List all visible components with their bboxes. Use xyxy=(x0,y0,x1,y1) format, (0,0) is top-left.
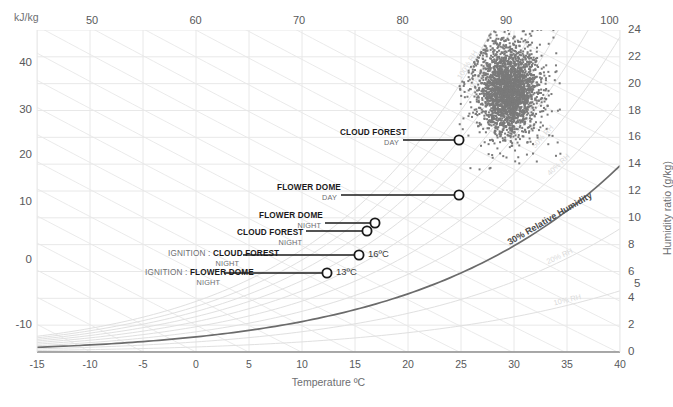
scatter-point xyxy=(525,131,527,133)
scatter-point xyxy=(533,103,535,105)
scatter-point xyxy=(528,104,530,106)
scatter-point xyxy=(502,102,504,104)
scatter-point xyxy=(504,66,506,68)
scatter-point xyxy=(537,137,539,139)
scatter-point xyxy=(527,106,529,108)
annotation-marker-cloud-forest-night[interactable] xyxy=(362,226,371,235)
scatter-point xyxy=(513,66,515,68)
annotation-marker-ignition-flower-dome-night[interactable] xyxy=(322,268,331,277)
scatter-point xyxy=(461,81,463,83)
scatter-point xyxy=(472,69,474,71)
scatter-point xyxy=(515,58,517,60)
scatter-point xyxy=(526,89,528,91)
scatter-point xyxy=(533,57,535,59)
scatter-point xyxy=(536,4,538,6)
x-tick-40: 40 xyxy=(606,358,634,370)
scatter-point xyxy=(460,103,462,105)
scatter-point xyxy=(513,36,515,38)
scatter-point xyxy=(471,116,473,118)
scatter-point xyxy=(511,131,513,133)
scatter-point xyxy=(511,103,513,105)
scatter-point xyxy=(529,105,531,107)
scatter-point xyxy=(517,128,519,130)
annotation-marker-ignition-cloud-forest-night[interactable] xyxy=(354,250,363,259)
scatter-point xyxy=(507,131,509,133)
scatter-point xyxy=(486,62,488,64)
scatter-point xyxy=(530,50,532,52)
scatter-point xyxy=(518,51,520,53)
scatter-point xyxy=(496,101,498,103)
y-axis-title: Humidity ratio (g/kg) xyxy=(661,161,673,255)
scatter-point xyxy=(515,79,517,81)
top-tick-60: 60 xyxy=(182,14,210,26)
scatter-point xyxy=(495,75,497,77)
scatter-point xyxy=(536,81,538,83)
annotation-marker-cloud-forest-day[interactable] xyxy=(454,135,463,144)
scatter-point xyxy=(479,107,481,109)
scatter-point xyxy=(463,81,465,83)
scatter-point xyxy=(516,53,518,55)
scatter-point xyxy=(496,122,498,124)
scatter-point xyxy=(511,108,513,110)
scatter-point xyxy=(502,140,504,142)
scatter-point xyxy=(492,95,494,97)
scatter-point xyxy=(514,71,516,73)
scatter-point xyxy=(493,30,495,32)
scatter-point xyxy=(509,112,511,114)
scatter-point xyxy=(495,125,497,127)
scatter-point xyxy=(517,136,519,138)
annotation-title-cloud-forest-night: CLOUD FOREST xyxy=(237,228,303,237)
scatter-point xyxy=(521,102,523,104)
scatter-point xyxy=(519,69,521,71)
top-tick-90: 90 xyxy=(492,14,520,26)
scatter-point xyxy=(529,125,531,127)
left-tick--10: -10 xyxy=(0,318,32,330)
scatter-point xyxy=(524,96,526,98)
annotation-marker-flower-dome-day[interactable] xyxy=(454,190,463,199)
scatter-point xyxy=(486,85,488,87)
annotation-sub-ignition-flower-dome-night: NIGHT xyxy=(190,278,220,287)
scatter-point xyxy=(515,114,517,116)
x-tick-25: 25 xyxy=(447,358,475,370)
scatter-point xyxy=(469,101,471,103)
scatter-point xyxy=(462,117,464,119)
scatter-point xyxy=(491,125,493,127)
scatter-point xyxy=(504,139,506,141)
scatter-point xyxy=(530,66,532,68)
scatter-point xyxy=(519,81,521,83)
scatter-point xyxy=(515,104,517,106)
scatter-point xyxy=(542,94,544,96)
scatter-point xyxy=(536,96,538,98)
scatter-point xyxy=(510,141,512,143)
scatter-point xyxy=(495,127,497,129)
scatter-point xyxy=(527,74,529,76)
scatter-point xyxy=(511,76,513,78)
scatter-point xyxy=(527,127,529,129)
scatter-point xyxy=(540,79,542,81)
scatter-point xyxy=(473,96,475,98)
scatter-point xyxy=(515,47,517,49)
scatter-point xyxy=(489,63,491,65)
scatter-point xyxy=(540,105,542,107)
scatter-point xyxy=(542,125,544,127)
annotation-title-ignition-flower-dome-night: IGNITION : FLOWER DOME xyxy=(145,268,254,277)
rh-curve-label-30: 30% Relative Humidity xyxy=(506,190,594,247)
scatter-point xyxy=(512,98,514,100)
scatter-point xyxy=(554,79,556,81)
scatter-point xyxy=(485,79,487,81)
scatter-point xyxy=(500,115,502,117)
scatter-point xyxy=(500,101,502,103)
scatter-point xyxy=(508,124,510,126)
scatter-point xyxy=(468,89,470,91)
scatter-point xyxy=(506,129,508,131)
scatter-point xyxy=(519,122,521,124)
scatter-point xyxy=(517,57,519,59)
scatter-point xyxy=(486,50,488,52)
annotation-marker-flower-dome-night[interactable] xyxy=(370,218,379,227)
scatter-point xyxy=(530,44,532,46)
scatter-point xyxy=(525,34,527,36)
scatter-point xyxy=(487,73,489,75)
scatter-point xyxy=(518,134,520,136)
x-tick-30: 30 xyxy=(500,358,528,370)
scatter-point xyxy=(537,11,539,13)
